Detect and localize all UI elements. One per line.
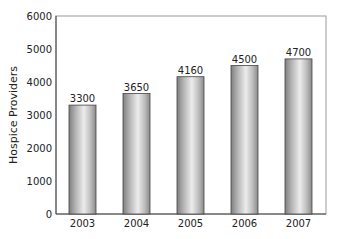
data-label: 3300	[70, 93, 95, 104]
y-tick-label: 4000	[27, 77, 52, 88]
y-tick-label: 0	[46, 209, 52, 220]
y-tick-label: 1000	[27, 176, 52, 187]
bar-2003	[69, 105, 96, 214]
bar-2005	[177, 77, 204, 214]
data-label: 4160	[178, 65, 203, 76]
x-tick-label: 2004	[124, 218, 149, 229]
bar-2004	[123, 94, 150, 214]
x-tick-label: 2003	[70, 218, 95, 229]
y-tick-label: 2000	[27, 143, 52, 154]
bar-chart: 0100020003000400050006000 33003650416045…	[0, 0, 339, 239]
x-tick-labels: 20032004200520062007	[70, 218, 311, 229]
y-tick-label: 6000	[27, 11, 52, 22]
bars: 33003650416045004700	[69, 47, 312, 214]
y-tick-labels: 0100020003000400050006000	[27, 11, 52, 220]
x-tick-label: 2005	[178, 218, 203, 229]
bar-2006	[231, 66, 258, 215]
x-tick-label: 2007	[286, 218, 311, 229]
x-tick-label: 2006	[232, 218, 257, 229]
bar-2007	[285, 59, 312, 214]
y-tick-label: 5000	[27, 44, 52, 55]
data-label: 3650	[124, 82, 149, 93]
y-tick-label: 3000	[27, 110, 52, 121]
y-axis-label: Hospice Providers	[7, 66, 20, 164]
data-label: 4700	[286, 47, 311, 58]
data-label: 4500	[232, 54, 257, 65]
